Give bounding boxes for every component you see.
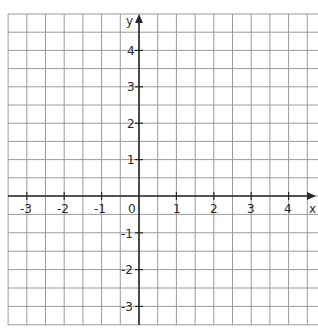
grid-lines	[8, 14, 318, 325]
x-tick-label: 4	[284, 202, 292, 216]
x-tick-label: 2	[210, 202, 218, 216]
x-axis-label: x	[309, 202, 316, 216]
y-axis-arrow-icon	[135, 14, 143, 23]
y-tick-label: 3	[127, 80, 135, 94]
y-tick-label: 2	[127, 117, 135, 131]
y-tick-label: -2	[121, 263, 133, 277]
x-tick-label: 3	[247, 202, 255, 216]
x-tick-label: -3	[20, 202, 32, 216]
coordinate-plane: x y 0 -3 -2 -1 1 2 3 4 4 3 2 1 -1 -2 -3	[0, 0, 318, 334]
y-tick-label: 4	[127, 44, 135, 58]
x-tick-label: -2	[57, 202, 69, 216]
y-tick-label: 1	[127, 153, 135, 167]
x-tick-label: -1	[94, 202, 106, 216]
y-axis-label: y	[126, 14, 133, 28]
y-tick-label: -3	[121, 300, 133, 314]
x-axis-arrow-icon	[307, 192, 316, 200]
x-tick-label: 1	[173, 202, 181, 216]
y-tick-label: -1	[121, 227, 133, 241]
y-axis: y	[126, 14, 143, 325]
origin-label: 0	[128, 202, 136, 216]
